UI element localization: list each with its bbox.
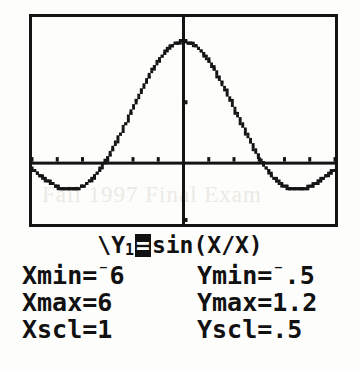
curve-pixel xyxy=(280,182,283,185)
curve-pixel xyxy=(122,125,125,128)
curve-pixel xyxy=(241,122,244,125)
curve-pixel xyxy=(156,60,159,63)
curve-pixel xyxy=(109,154,112,157)
graph-viewport[interactable] xyxy=(29,14,338,227)
ymin-field[interactable]: Ymin=⁻.5 xyxy=(197,262,352,289)
xscl-value: 1 xyxy=(97,315,112,344)
curve-pixel xyxy=(158,57,161,60)
curve-pixel xyxy=(280,185,283,188)
curve-pixel xyxy=(306,185,309,188)
curve-pixel xyxy=(197,47,200,50)
graph-plot-area xyxy=(32,17,335,224)
curve-pixel xyxy=(332,169,335,172)
curve-pixel xyxy=(208,57,211,60)
curve-pixel xyxy=(46,180,49,183)
xmax-label: Xmax= xyxy=(22,288,97,317)
ymax-field[interactable]: Ymax=1.2 xyxy=(197,289,352,316)
curve-pixel xyxy=(319,180,322,183)
curve-pixel xyxy=(257,154,260,157)
curve-pixel xyxy=(293,187,296,190)
curve-pixel xyxy=(234,107,237,110)
curve-pixel xyxy=(236,112,239,115)
curve-pixel xyxy=(239,122,242,125)
curve-pixel xyxy=(153,68,156,71)
curve-pixel xyxy=(249,141,252,144)
curve-pixel xyxy=(247,135,250,138)
curve-pixel xyxy=(36,172,39,175)
curve-pixel xyxy=(145,78,148,81)
curve-pixel xyxy=(218,78,221,81)
ymin-negative-sign: ⁻ xyxy=(272,260,284,282)
curve-pixel xyxy=(192,44,195,47)
curve-pixel xyxy=(67,187,70,190)
curve-pixel xyxy=(223,86,226,89)
yscl-value: .5 xyxy=(272,315,302,344)
curve-pixel xyxy=(91,180,94,183)
curve-pixel xyxy=(215,70,218,73)
curve-pixel xyxy=(221,83,224,86)
xmax-field[interactable]: Xmax=6 xyxy=(22,289,197,316)
curve-pixel xyxy=(252,148,255,151)
xscl-field[interactable]: Xscl=1 xyxy=(22,316,197,343)
equation-prefix: \Y xyxy=(97,232,125,258)
curve-pixel xyxy=(111,146,114,149)
curve-pixel xyxy=(228,99,231,102)
curve-pixel xyxy=(80,185,83,188)
curve-pixel xyxy=(70,187,73,190)
curve-pixel xyxy=(312,182,315,185)
curve-pixel xyxy=(236,115,239,118)
curve-pixel xyxy=(98,169,101,172)
curve-pixel xyxy=(65,187,68,190)
curve-pixel xyxy=(96,172,99,175)
curve-pixel xyxy=(260,159,263,162)
curve-pixel xyxy=(254,151,257,154)
curve-pixel xyxy=(200,50,203,53)
curve-pixel xyxy=(226,94,229,97)
window-settings-block: Xmin=⁻6 Ymin=⁻.5 Xmax=6 Ymax=1.2 Xscl=1 … xyxy=(22,262,352,343)
curve-pixel xyxy=(231,99,234,102)
curve-pixel xyxy=(205,57,208,60)
curve-pixel xyxy=(156,63,159,66)
curve-pixel xyxy=(111,148,114,151)
curve-pixel xyxy=(262,164,265,167)
curve-pixel xyxy=(127,117,130,120)
x-axis-tick xyxy=(132,157,135,162)
curve-pixel xyxy=(270,172,273,175)
curve-pixel xyxy=(208,60,211,63)
equation-index: 1 xyxy=(125,241,134,259)
curve-pixel xyxy=(317,182,320,185)
curve-pixel xyxy=(267,169,270,172)
curve-pixel xyxy=(265,167,268,170)
axes-layer xyxy=(32,17,335,224)
curve-pixel xyxy=(275,180,278,183)
curve-pixel xyxy=(254,148,257,151)
curve-pixel xyxy=(57,185,60,188)
curve-pixel xyxy=(174,42,177,45)
curve-pixel xyxy=(137,96,140,99)
xmin-field[interactable]: Xmin=⁻6 xyxy=(22,262,197,289)
curve-pixel xyxy=(130,112,133,115)
curve-pixel xyxy=(309,185,312,188)
curve-pixel xyxy=(39,174,42,177)
curve-pixel xyxy=(192,42,195,45)
curve-pixel xyxy=(78,187,81,190)
curve-pixel xyxy=(286,187,289,190)
equation-equals-highlight[interactable]: = xyxy=(135,234,151,257)
curve-pixel xyxy=(44,180,47,183)
curve-pixel xyxy=(59,187,62,190)
curve-pixel xyxy=(234,109,237,112)
curve-pixel xyxy=(247,133,250,136)
curve-pixel xyxy=(314,182,317,185)
curve-pixel xyxy=(143,83,146,86)
curve-pixel xyxy=(148,76,151,79)
curve-pixel xyxy=(104,159,107,162)
curve-pixel xyxy=(319,177,322,180)
curve-pixel xyxy=(301,187,304,190)
curve-pixel xyxy=(234,112,237,115)
curve-pixel xyxy=(117,141,120,144)
equation-line[interactable]: \Y1=sin(X/X) xyxy=(0,232,360,258)
curve-pixel xyxy=(299,187,302,190)
equation-body: sin(X/X) xyxy=(152,232,263,258)
curve-pixel xyxy=(226,89,229,92)
yscl-field[interactable]: Yscl=.5 xyxy=(197,316,352,343)
